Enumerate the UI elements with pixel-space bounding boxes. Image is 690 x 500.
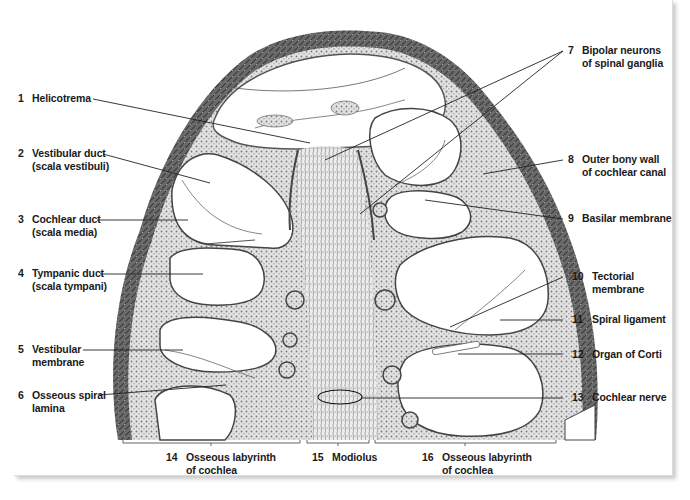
label-2-vestibular-duct: 2Vestibular duct (scala vestibuli)	[18, 147, 109, 173]
figure-caption-partial	[200, 491, 640, 500]
cochlea-histology-illustration	[0, 0, 690, 500]
label-10-tectorial-membrane: 10Tectorial membrane	[572, 270, 644, 296]
label-5-vestibular-membrane: 5Vestibular membrane	[18, 343, 84, 369]
label-13-cochlear-nerve: 13Cochlear nerve	[572, 391, 666, 404]
label-6-osseous-spiral-lamina: 6Osseous spiral lamina	[18, 389, 106, 415]
label-3-cochlear-duct: 3Cochlear duct (scala media)	[18, 213, 101, 239]
label-12-organ-of-corti: 12Organ of Corti	[572, 348, 662, 361]
label-15-modiolus: 15Modiolus	[312, 451, 377, 464]
bottom-braces	[123, 440, 556, 446]
label-9-basilar-membrane: 9Basilar membrane	[568, 212, 671, 225]
label-4-tympanic-duct: 4Tympanic duct (scala tympani)	[18, 267, 107, 293]
label-7-bipolar-neurons: 7Bipolar neurons of spinal ganglia	[568, 44, 663, 70]
label-16-osseous-labyrinth-right: 16Osseous labyrinth of cochlea	[422, 451, 532, 477]
label-1-helicotrema: 1Helicotrema	[18, 92, 91, 105]
label-11-spiral-ligament: 11Spiral ligament	[572, 313, 666, 326]
label-8-outer-bony-wall: 8Outer bony wall of cochlear canal	[568, 153, 666, 179]
label-14-osseous-labyrinth-left: 14Osseous labyrinth of cochlea	[166, 451, 276, 477]
